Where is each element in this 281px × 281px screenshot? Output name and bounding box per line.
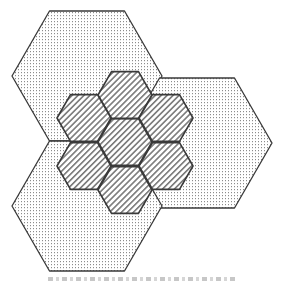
figure-caption-illegible — [48, 277, 238, 281]
hexagon-cell-diagram — [0, 0, 281, 281]
